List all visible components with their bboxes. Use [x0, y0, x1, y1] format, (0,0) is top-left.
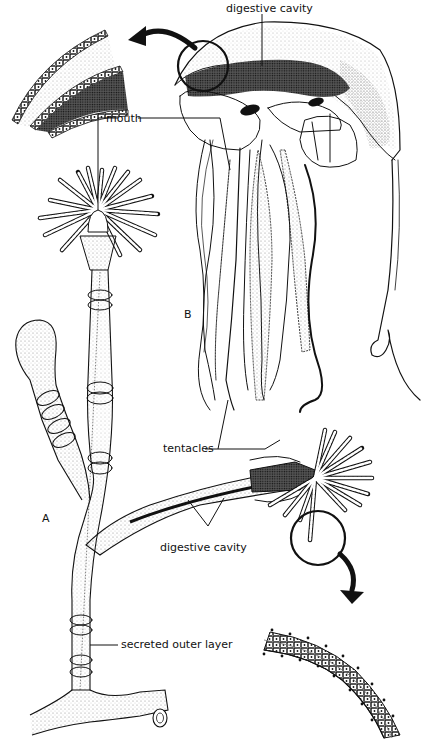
- medusa-b: [175, 22, 420, 412]
- magnifier-circle-bottom: [291, 511, 345, 565]
- tentacle-inset: [263, 629, 400, 738]
- label-tentacles: tentacles: [163, 442, 214, 455]
- illustration-canvas: digestive cavity mouth tentacles digesti…: [0, 0, 426, 740]
- label-digestive-cavity-top: digestive cavity: [226, 2, 313, 15]
- magnify-arrow-top: [128, 26, 195, 48]
- label-digestive-cavity-bottom: digestive cavity: [160, 541, 247, 554]
- label-mouth: mouth: [106, 112, 142, 125]
- label-secreted-outer-layer: secreted outer layer: [121, 638, 233, 651]
- polyp-upper: [40, 168, 158, 270]
- magnify-arrow-bottom: [340, 554, 364, 604]
- label-part-a: A: [42, 512, 50, 525]
- label-part-b: B: [184, 308, 192, 321]
